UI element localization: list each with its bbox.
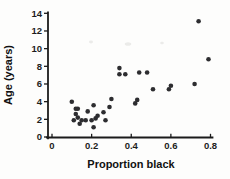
- y-axis: [44, 13, 48, 139]
- x-tick-labels: 00.20.40.60.8: [49, 140, 217, 151]
- scan-artifact: [89, 41, 93, 44]
- y-axis-label: Age (years): [2, 45, 14, 105]
- x-axis-label: Proportion black: [87, 158, 175, 170]
- data-point: [192, 82, 197, 87]
- data-point: [135, 98, 140, 103]
- data-point: [107, 105, 112, 110]
- data-point: [91, 125, 96, 130]
- data-point: [103, 118, 108, 123]
- x-axis: [47, 134, 213, 138]
- data-point: [101, 110, 106, 115]
- y-tick-label: 8: [37, 61, 42, 72]
- x-tick-label: 0: [49, 140, 54, 151]
- x-tick-label: 0.4: [125, 140, 139, 151]
- y-tick-label: 0: [37, 131, 42, 142]
- data-point: [74, 106, 79, 111]
- data-points: [70, 19, 211, 130]
- data-point: [72, 118, 77, 123]
- data-point: [117, 72, 122, 77]
- data-point: [151, 87, 156, 92]
- scan-artifact: [160, 42, 164, 44]
- data-point: [206, 57, 211, 62]
- data-point: [196, 19, 201, 24]
- y-tick-label: 6: [37, 78, 42, 89]
- data-point: [70, 99, 75, 104]
- data-point: [145, 70, 150, 75]
- scatter-plot-figure: 00.20.40.60.8 02468101214 Proportion bla…: [0, 0, 230, 179]
- scatter-plot: 00.20.40.60.8 02468101214 Proportion bla…: [0, 0, 230, 179]
- data-point: [117, 66, 122, 71]
- y-tick-label: 2: [37, 114, 42, 125]
- data-point: [79, 118, 84, 123]
- x-tick-label: 0.8: [204, 140, 217, 151]
- x-tick-label: 0.2: [85, 140, 98, 151]
- scan-artifact: [125, 42, 131, 46]
- y-tick-label: 12: [31, 25, 42, 36]
- x-tick-label: 0.6: [164, 140, 177, 151]
- scan-artifacts: [89, 41, 164, 46]
- data-point: [83, 118, 88, 123]
- data-point: [109, 97, 114, 102]
- data-point: [91, 103, 96, 108]
- y-tick-labels: 02468101214: [31, 8, 42, 143]
- data-point: [89, 118, 94, 123]
- data-point: [123, 72, 128, 77]
- data-point: [85, 109, 90, 114]
- data-point: [93, 116, 98, 121]
- y-tick-label: 14: [31, 8, 42, 19]
- data-point: [74, 112, 79, 117]
- data-point: [137, 70, 142, 75]
- data-point: [169, 84, 174, 89]
- y-tick-label: 10: [31, 43, 42, 54]
- y-tick-label: 4: [37, 96, 43, 107]
